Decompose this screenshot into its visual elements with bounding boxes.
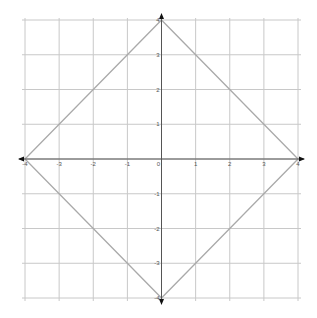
x-tick-label: -1 bbox=[125, 161, 131, 167]
x-tick-label: -3 bbox=[56, 161, 62, 167]
arrow-down-icon bbox=[159, 299, 164, 305]
y-tick-label: -3 bbox=[154, 260, 160, 266]
x-tick-label: 2 bbox=[228, 161, 232, 167]
axes bbox=[18, 13, 305, 305]
x-tick-label: 1 bbox=[194, 161, 198, 167]
y-tick-label: -1 bbox=[154, 191, 160, 197]
y-tick-label: -4 bbox=[154, 295, 160, 301]
x-tick-label: 3 bbox=[262, 161, 266, 167]
x-tick-label: -4 bbox=[22, 161, 28, 167]
y-tick-label: -2 bbox=[154, 226, 160, 232]
x-tick-label: 0 bbox=[157, 161, 161, 167]
x-tick-label: 4 bbox=[296, 161, 300, 167]
x-tick-label: -2 bbox=[91, 161, 97, 167]
arrow-right-icon bbox=[299, 157, 305, 162]
coordinate-plane: -4-3-2-101234-4-3-2-11234 bbox=[0, 0, 317, 318]
arrow-up-icon bbox=[159, 13, 164, 19]
